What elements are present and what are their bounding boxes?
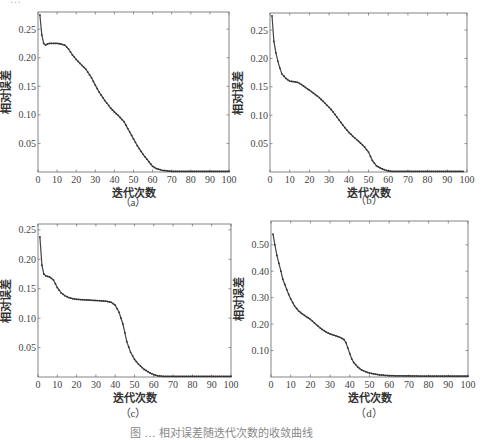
x-tick-label: 10 <box>286 379 296 390</box>
x-tick-label: 50 <box>365 379 375 390</box>
y-tick-label: 0.40 <box>252 266 270 277</box>
y-axis-label: 相对误差 <box>232 277 246 321</box>
data-line <box>273 234 468 376</box>
x-axis-label: 迭代次数 <box>348 391 393 405</box>
x-tick-label: 90 <box>443 379 453 390</box>
x-tick-label: 0 <box>269 379 274 390</box>
y-tick-label: 0.50 <box>252 239 270 250</box>
y-tick-label: 0.20 <box>252 319 270 330</box>
x-tick-label: 60 <box>384 379 394 390</box>
subcaption-a: （a） <box>113 193 153 209</box>
subcaption-c: （c） <box>113 404 153 420</box>
x-tick-label: 70 <box>404 379 414 390</box>
subcaption-d: （d） <box>349 404 389 420</box>
subcaption-b: （b） <box>349 191 389 207</box>
y-tick-label: 0.10 <box>252 345 270 356</box>
figure-caption-partial: 图 … 相对误差随迭代次数的收敛曲线 <box>130 424 313 440</box>
data-markers <box>272 233 469 377</box>
x-tick-label: 80 <box>424 379 434 390</box>
x-tick-label: 40 <box>345 379 355 390</box>
x-tick-label: 20 <box>305 379 315 390</box>
y-tick-label: 0.30 <box>252 292 270 303</box>
x-tick-label: 30 <box>325 379 335 390</box>
x-tick-label: 100 <box>461 379 476 390</box>
axes-frame <box>271 221 468 377</box>
